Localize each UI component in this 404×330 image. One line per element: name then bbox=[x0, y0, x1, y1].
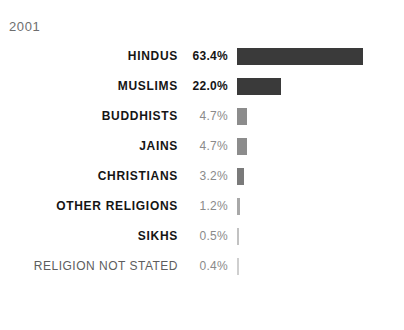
bar-rows: HINDUS63.4%MUSLIMS22.0%BUDDHISTS4.7%JAIN… bbox=[0, 41, 404, 281]
chart-subtitle-year: 2001 bbox=[9, 19, 40, 35]
bar-row: OTHER RELIGIONS1.2% bbox=[0, 191, 404, 221]
bar-row: RELIGION NOT STATED0.4% bbox=[0, 251, 404, 281]
bar-track bbox=[237, 228, 404, 245]
bar-row: BUDDHISTS4.7% bbox=[0, 101, 404, 131]
bar-track bbox=[237, 138, 404, 155]
bar-track bbox=[237, 198, 404, 215]
bar-row-label: CHRISTIANS bbox=[0, 169, 178, 183]
bar bbox=[237, 78, 281, 95]
bar bbox=[237, 138, 247, 155]
bar-row-label: JAINS bbox=[0, 139, 178, 153]
bar-track bbox=[237, 48, 404, 65]
bar bbox=[237, 48, 363, 65]
bar-track bbox=[237, 258, 404, 275]
bar-row-value: 4.7% bbox=[178, 139, 228, 153]
bar-row-value: 4.7% bbox=[178, 109, 228, 123]
bar-row-value: 3.2% bbox=[178, 169, 228, 183]
bar-row-label: RELIGION NOT STATED bbox=[0, 259, 178, 273]
bar-row-label: MUSLIMS bbox=[0, 79, 178, 93]
bar-row: CHRISTIANS3.2% bbox=[0, 161, 404, 191]
bar-row: JAINS4.7% bbox=[0, 131, 404, 161]
bar-track bbox=[237, 108, 404, 125]
bar-row-value: 0.4% bbox=[178, 259, 228, 273]
bar bbox=[237, 198, 240, 215]
bar-track bbox=[237, 78, 404, 95]
bar-row-value: 22.0% bbox=[178, 79, 228, 93]
chart-title-clipped: IC'S MAIN RELIGIONS bbox=[0, 0, 404, 9]
bar-row-label: BUDDHISTS bbox=[0, 109, 178, 123]
religions-bar-chart: IC'S MAIN RELIGIONS 2001 HINDUS63.4%MUSL… bbox=[0, 0, 404, 330]
bar bbox=[237, 108, 247, 125]
bar bbox=[237, 258, 239, 275]
bar-row: HINDUS63.4% bbox=[0, 41, 404, 71]
bar-row-value: 1.2% bbox=[178, 199, 228, 213]
bar bbox=[237, 228, 239, 245]
page-title: IC'S MAIN RELIGIONS bbox=[24, 0, 360, 7]
bar-track bbox=[237, 168, 404, 185]
bar-row-label: OTHER RELIGIONS bbox=[0, 199, 178, 213]
bar bbox=[237, 168, 244, 185]
bar-row-value: 63.4% bbox=[178, 49, 228, 63]
bar-row-label: SIKHS bbox=[0, 229, 178, 243]
bar-row-value: 0.5% bbox=[178, 229, 228, 243]
bar-row: SIKHS0.5% bbox=[0, 221, 404, 251]
bar-row: MUSLIMS22.0% bbox=[0, 71, 404, 101]
bar-row-label: HINDUS bbox=[0, 49, 178, 63]
